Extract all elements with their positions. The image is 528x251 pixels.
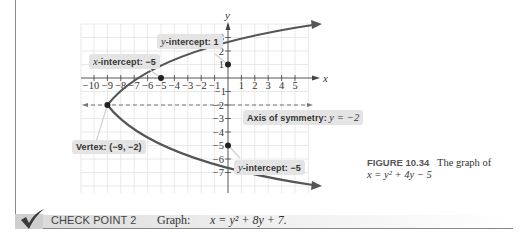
- symmetry-right-arrow-icon: [307, 103, 313, 107]
- check-point-title: CHECK POINT 2: [51, 214, 136, 226]
- symmetry-left-arrow-icon: [82, 103, 88, 107]
- callout-vertex: Vertex: (−9, −2): [72, 140, 146, 154]
- svg-text:−5: −5: [213, 140, 224, 151]
- x-axis-label: x: [322, 72, 328, 84]
- y-intercept-bottom-point: [225, 143, 231, 149]
- svg-text:−8: −8: [115, 80, 126, 91]
- svg-text:−6: −6: [213, 154, 224, 165]
- svg-text:−5: −5: [155, 80, 166, 91]
- vertex-point: [104, 102, 110, 108]
- x-tick-labels: −10 −9 −8 −7 −6 −5 −4 −3 −2 −1 1 2 3 4 5: [83, 80, 298, 91]
- y-intercept-top-point: [225, 62, 231, 68]
- svg-text:−4: −4: [213, 127, 225, 138]
- svg-text:2: 2: [252, 80, 257, 91]
- curve-bottom-arrow-icon: [311, 181, 322, 190]
- callout-y-intercept-top: y-intercept: 1: [157, 34, 223, 49]
- figure-caption-equation: x = y² + 4y − 5: [367, 169, 432, 180]
- y-axis-arrow-icon: [226, 22, 231, 30]
- y-axis-label: y: [224, 9, 230, 21]
- callout-y-intercept-bottom: y-intercept: −5: [234, 160, 305, 175]
- x-axis-arrow-icon: [312, 76, 320, 81]
- check-point-equation: x = y² + 8y + 7.: [210, 213, 287, 228]
- figure-caption: FIGURE 10.34 The graph of x = y² + 4y − …: [367, 157, 491, 181]
- checkmark-icon: [19, 208, 45, 230]
- svg-text:−10: −10: [83, 80, 99, 91]
- figure-caption-text: The graph of: [437, 157, 491, 168]
- svg-text:4: 4: [279, 80, 285, 91]
- svg-text:−2: −2: [196, 80, 207, 91]
- svg-text:−6: −6: [142, 80, 153, 91]
- svg-text:−4: −4: [169, 80, 181, 91]
- svg-text:5: 5: [292, 80, 297, 91]
- figure-label: FIGURE 10.34: [367, 157, 429, 168]
- x-intercept-point: [158, 75, 164, 81]
- curve-top-arrow-icon: [311, 20, 322, 29]
- svg-text:3: 3: [266, 80, 271, 91]
- svg-text:1: 1: [239, 80, 244, 91]
- svg-text:−1: −1: [215, 86, 226, 97]
- svg-text:−7: −7: [213, 167, 224, 178]
- svg-text:−3: −3: [182, 80, 193, 91]
- check-point-label: Graph:: [157, 213, 190, 228]
- callout-axis-of-symmetry: Axis of symmetry: y = −2: [243, 110, 363, 125]
- svg-text:−3: −3: [213, 113, 224, 124]
- callout-x-intercept: x-intercept: −5: [89, 54, 160, 69]
- svg-text:−9: −9: [102, 80, 113, 91]
